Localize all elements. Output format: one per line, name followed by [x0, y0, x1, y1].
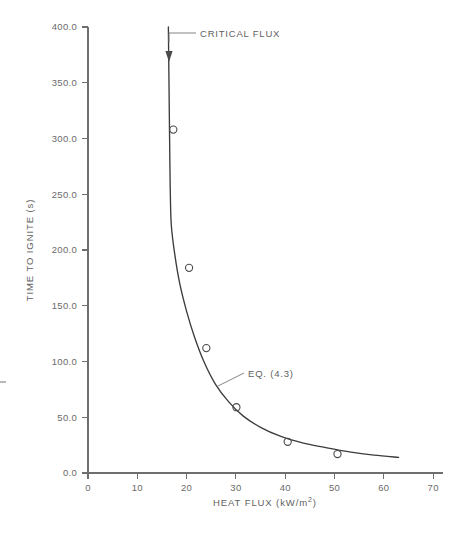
chart-axes: [88, 27, 443, 473]
critical-flux-arrow-icon: [165, 51, 172, 62]
annotation-eq-43: EQ. (4.3): [218, 368, 294, 386]
x-axis-title-base: HEAT FLUX (kW/m: [213, 497, 308, 508]
data-point-markers: [170, 126, 341, 458]
x-tick-label: 60: [378, 482, 389, 493]
x-tick-label: 0: [85, 482, 91, 493]
x-tick-label: 50: [329, 482, 340, 493]
annotation-critical-flux: CRITICAL FLUX: [165, 28, 280, 62]
data-point-marker: [203, 345, 210, 352]
y-axis-ticks: 0.050.0100.0150.0200.0250.0300.0350.0400…: [52, 21, 88, 478]
y-tick-label: 150.0: [52, 300, 77, 311]
y-tick-label: 250.0: [52, 189, 77, 200]
x-axis-title-tail: ): [313, 497, 317, 508]
eq43-label: EQ. (4.3): [248, 368, 294, 379]
y-tick-label: 0.0: [63, 467, 77, 478]
critical-flux-leader-line: [169, 33, 196, 42]
x-tick-label: 20: [181, 482, 192, 493]
y-tick-label: 350.0: [52, 77, 77, 88]
x-axis-ticks: 010203040506070: [85, 473, 439, 493]
fitted-curve-eq43: [168, 27, 398, 457]
x-tick-label: 10: [132, 482, 143, 493]
y-tick-label: 200.0: [52, 244, 77, 255]
critical-flux-label: CRITICAL FLUX: [200, 28, 280, 39]
x-axis-title: HEAT FLUX (kW/m2): [213, 496, 317, 508]
data-point-marker: [334, 450, 341, 457]
y-tick-label: 300.0: [52, 133, 77, 144]
eq43-leader-line: [218, 373, 244, 386]
chart-figure: 0.050.0100.0150.0200.0250.0300.0350.0400…: [0, 0, 468, 536]
x-tick-label: 70: [428, 482, 439, 493]
data-point-marker: [170, 126, 177, 133]
x-tick-label: 30: [230, 482, 241, 493]
y-tick-label: 50.0: [57, 412, 77, 423]
chart-svg: 0.050.0100.0150.0200.0250.0300.0350.0400…: [0, 0, 468, 536]
data-point-marker: [185, 264, 192, 271]
y-tick-label: 400.0: [52, 21, 77, 32]
x-tick-label: 40: [280, 482, 291, 493]
y-tick-label: 100.0: [52, 356, 77, 367]
y-axis-title: TIME TO IGNITE (s): [24, 199, 35, 301]
